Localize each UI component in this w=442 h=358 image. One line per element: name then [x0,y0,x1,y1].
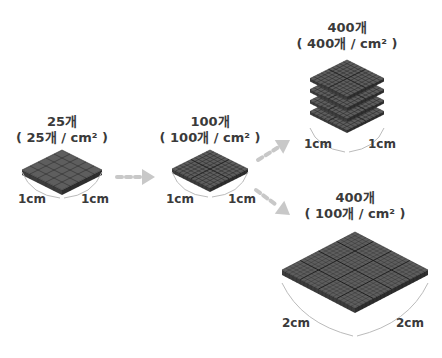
stage-2-right-dim: 1cm [228,192,256,206]
stage-3-left-dim: 1cm [304,137,332,151]
stage-2-count: 100개 [160,114,261,130]
stage-1-density: ( 25개 / cm² ) [16,130,108,146]
stage-2-plate [172,150,248,192]
stage-1-left-dim: 1cm [18,192,46,206]
stage-3-right-dim: 1cm [368,137,396,151]
stage-2-density: ( 100개 / cm² ) [160,130,261,146]
stage-1-right-dim: 1cm [81,192,109,206]
stage-2-left-dim: 1cm [166,192,194,206]
stage-4-right-dim: 2cm [396,316,424,330]
stage-1-count: 25개 [16,114,108,130]
stage-3-count: 400개 [297,20,398,36]
stage-2-label: 100개 ( 100개 / cm² ) [160,114,261,146]
stage-4-label: 400개 ( 100개 / cm² ) [305,190,406,222]
stage-4-left-dim: 2cm [282,316,310,330]
stage-3-label: 400개 ( 400개 / cm² ) [297,20,398,52]
arrow-head-icon [142,169,155,185]
stage-4-density: ( 100개 / cm² ) [305,206,406,222]
arrow-stage2-to-stage4 [256,190,290,215]
arrow-head-icon [275,201,290,215]
arrow-stage2-to-stage3 [258,140,290,160]
arrow-stage1-to-stage2 [117,169,155,185]
stage-4-plate [282,232,428,313]
diagram-canvas [0,0,442,358]
stage-1-label: 25개 ( 25개 / cm² ) [16,114,108,146]
stage-4-count: 400개 [305,190,406,206]
stage-3-density: ( 400개 / cm² ) [297,36,398,52]
